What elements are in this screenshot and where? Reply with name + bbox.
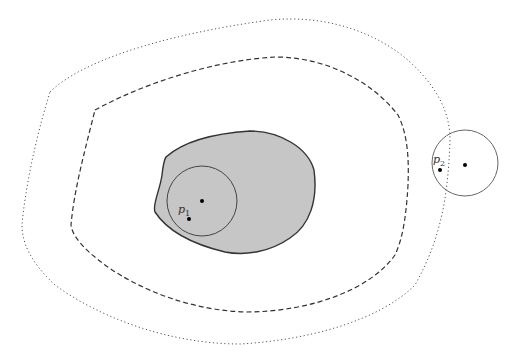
p1-subscript: 1	[185, 209, 190, 218]
point-p2-dot	[438, 168, 442, 172]
point-p1-label: p1	[178, 203, 190, 218]
point-p2-label: p2	[433, 153, 445, 168]
circle-2-center-dot	[463, 163, 467, 167]
circle-1-center-dot	[200, 199, 204, 203]
diagram-canvas: p1 p2	[0, 0, 517, 357]
p1-label-text: p	[178, 203, 185, 216]
p2-subscript: 2	[440, 159, 445, 168]
p2-label-text: p	[433, 153, 440, 166]
diagram-svg	[0, 0, 517, 357]
inner-shaded-region	[154, 131, 315, 253]
